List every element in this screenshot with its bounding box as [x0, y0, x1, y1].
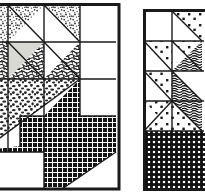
patch-r1c4-plain [80, 5, 116, 42]
patch-bottom-band [144, 131, 205, 189]
illustration-canvas [0, 0, 205, 196]
patch-r2c0-fill [0, 42, 8, 79]
right-block-artwork [142, 0, 205, 196]
patch-bottom-left-plain [0, 152, 44, 189]
left-block-artwork [0, 0, 122, 196]
maple-leaf-quilt-block-left [0, 0, 122, 196]
patch-r2c4-plain [80, 42, 116, 79]
patch-r1c1-plain [144, 11, 172, 41]
maple-leaf-quilt-block-right [142, 0, 205, 196]
right-block-patches [144, 10, 205, 190]
patch-r1c0-fill [0, 5, 8, 42]
